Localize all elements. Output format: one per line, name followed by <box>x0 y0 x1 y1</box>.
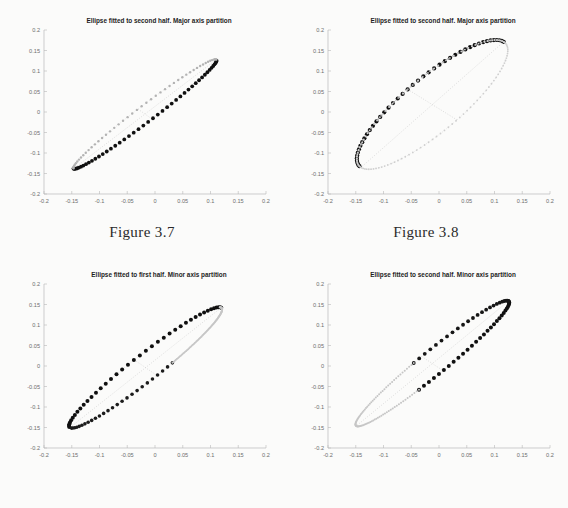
minor-axis-line <box>422 356 443 370</box>
data-point <box>105 134 107 136</box>
data-point <box>498 39 500 41</box>
data-point <box>362 168 364 170</box>
data-point <box>478 43 480 45</box>
data-point <box>411 394 413 396</box>
data-point <box>151 116 155 120</box>
data-point <box>120 400 124 404</box>
data-point <box>412 84 414 86</box>
data-point <box>156 340 160 344</box>
data-point <box>424 144 426 146</box>
data-point <box>373 168 375 170</box>
data-point <box>111 406 115 410</box>
data-point <box>156 373 160 377</box>
data-point <box>382 414 384 416</box>
x-tick-label: 0.1 <box>491 198 499 204</box>
data-point <box>460 51 462 53</box>
x-tick-label: 0.2 <box>262 198 270 204</box>
major-axis-line <box>356 301 508 426</box>
data-point <box>461 352 465 356</box>
plot-title: Ellipse fitted to second half. Major axi… <box>370 17 515 25</box>
data-point <box>146 381 150 385</box>
data-point <box>485 89 487 91</box>
data-point <box>399 373 401 375</box>
data-point <box>506 55 508 57</box>
data-point <box>117 123 119 125</box>
x-tick-label: -0.1 <box>95 198 105 204</box>
data-point <box>406 368 408 370</box>
y-tick-label: 0.15 <box>29 48 40 54</box>
data-point <box>141 124 145 128</box>
data-point <box>398 403 400 405</box>
data-point <box>90 419 94 423</box>
data-point <box>384 165 386 167</box>
data-point <box>492 39 494 41</box>
y-tick-label: 0.2 <box>32 281 40 287</box>
data-point <box>404 399 406 401</box>
data-point <box>93 157 97 161</box>
data-point <box>98 414 102 418</box>
data-point <box>99 386 103 390</box>
data-point <box>499 70 501 72</box>
data-point <box>457 53 459 55</box>
y-tick-label: -0.05 <box>27 384 40 390</box>
plot-title: Ellipse fitted to first half. Minor axis… <box>91 271 226 279</box>
data-point <box>463 113 465 115</box>
data-point <box>402 93 404 95</box>
data-point <box>432 376 436 380</box>
x-tick-label: -0.05 <box>121 452 134 458</box>
data-point <box>390 163 392 165</box>
data-point <box>444 130 446 132</box>
data-point <box>173 82 175 84</box>
figure-caption-3-7: Figure 3.7 <box>0 224 284 241</box>
x-tick-label: 0 <box>437 452 440 458</box>
data-point <box>436 136 438 138</box>
axis-spines <box>328 284 550 448</box>
data-point <box>102 412 106 416</box>
data-series <box>72 59 219 171</box>
minor-axis-line <box>408 89 457 120</box>
data-point <box>189 71 191 73</box>
data-point <box>442 368 446 372</box>
x-tick-label: -0.15 <box>349 452 362 458</box>
data-point <box>135 389 139 393</box>
data-point <box>417 357 421 361</box>
data-point <box>489 325 493 329</box>
data-point <box>471 316 475 320</box>
data-point <box>382 113 384 115</box>
data-point <box>470 344 474 348</box>
x-tick-label: -0.1 <box>379 198 389 204</box>
data-point <box>500 40 502 42</box>
data-series <box>412 299 511 365</box>
data-point <box>416 390 418 392</box>
data-point <box>387 164 389 166</box>
data-point <box>97 140 99 142</box>
data-point <box>118 141 122 145</box>
data-point <box>385 386 387 388</box>
data-point <box>376 395 378 397</box>
y-tick-label: -0.05 <box>27 130 40 136</box>
data-point <box>364 168 366 170</box>
data-point <box>428 347 432 351</box>
data-point <box>418 389 420 391</box>
data-point <box>389 383 391 385</box>
data-point <box>434 343 438 347</box>
data-point <box>151 377 155 381</box>
data-point <box>357 151 359 153</box>
data-point <box>140 385 144 389</box>
data-point <box>404 156 406 158</box>
data-point <box>493 80 495 82</box>
data-point <box>495 77 497 79</box>
data-point <box>396 405 398 407</box>
data-point <box>484 41 486 43</box>
data-point <box>466 348 470 352</box>
x-tick-label: 0.15 <box>233 452 244 458</box>
data-point <box>397 160 399 162</box>
data-point <box>476 313 480 317</box>
x-tick-label: -0.2 <box>323 198 333 204</box>
data-point <box>507 49 509 51</box>
y-tick-label: 0.15 <box>313 302 324 308</box>
x-tick-label: -0.15 <box>65 198 78 204</box>
data-point <box>358 149 360 151</box>
data-point <box>184 321 188 325</box>
x-tick-label: -0.05 <box>405 452 418 458</box>
